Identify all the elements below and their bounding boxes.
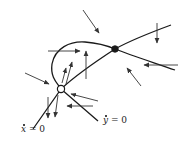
arrow-icon xyxy=(83,10,99,33)
phase-plane-diagram: x = 0 y = 0 xyxy=(0,0,190,147)
xdot-eq: = 0 xyxy=(26,124,45,134)
ydot-var: y xyxy=(103,115,108,125)
xdot-var: x xyxy=(21,124,26,134)
equilibrium-hollow-node xyxy=(57,85,64,92)
arrow-icon xyxy=(71,94,98,101)
equilibrium-filled-node xyxy=(112,46,119,53)
xdot-nullcline-label: x = 0 xyxy=(21,124,45,134)
ydot-nullcline xyxy=(61,25,171,121)
direction-arrows xyxy=(25,10,178,118)
arrow-icon xyxy=(127,68,141,86)
ydot-nullcline-label: y = 0 xyxy=(103,115,127,125)
arrow-icon xyxy=(25,73,49,84)
arrow-icon xyxy=(55,95,58,117)
arrow-icon xyxy=(62,68,66,83)
ydot-eq: = 0 xyxy=(108,115,127,125)
